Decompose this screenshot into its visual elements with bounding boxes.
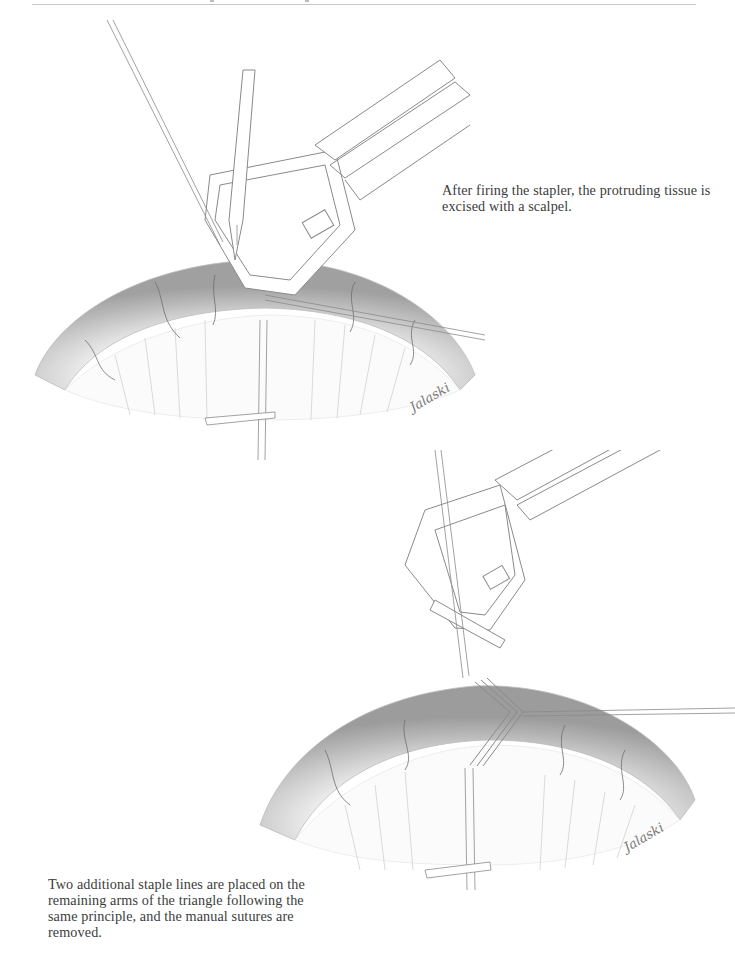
figure-bottom-illustration: Jalaski bbox=[255, 450, 735, 920]
header-mark bbox=[305, 0, 309, 2]
surgical-illustration-top: Jalaski bbox=[15, 20, 495, 460]
surgical-illustration-bottom: Jalaski bbox=[255, 450, 735, 920]
figure-top-illustration: Jalaski bbox=[15, 20, 495, 460]
caption-bottom: Two additional staple lines are placed o… bbox=[48, 876, 333, 940]
caption-top: After firing the stapler, the protruding… bbox=[442, 182, 732, 214]
running-header-rule bbox=[32, 4, 696, 5]
header-mark bbox=[210, 0, 214, 2]
